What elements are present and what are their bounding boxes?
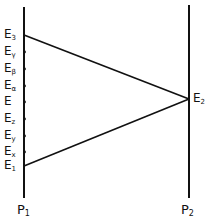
level-label-subscript: x bbox=[12, 151, 16, 159]
p2-label-base: P bbox=[181, 202, 189, 217]
level-label-base: E bbox=[4, 27, 12, 41]
level-label-base: E bbox=[4, 78, 12, 92]
level-label-subscript: 3 bbox=[12, 34, 16, 42]
transition-line-e3-e2 bbox=[24, 35, 189, 99]
level-tick-ez bbox=[23, 118, 26, 121]
energy-transfer-diagram bbox=[0, 0, 212, 220]
p1-label-base: P bbox=[17, 202, 25, 217]
level-label-subscript: β bbox=[12, 68, 16, 76]
level-label-base: E bbox=[4, 144, 12, 158]
transition-line-e1-e2 bbox=[24, 99, 189, 166]
level-label-e: E bbox=[4, 95, 12, 107]
level-label-ez: Ez bbox=[4, 112, 15, 126]
level-label-ex: Ex bbox=[4, 145, 16, 159]
p2-label-subscript: 2 bbox=[189, 209, 194, 218]
p1-label: P1 bbox=[17, 203, 30, 220]
level-label-subscript: 2 bbox=[201, 98, 205, 106]
level-tick-e bbox=[23, 101, 26, 104]
level-label-subscript: y bbox=[12, 135, 16, 143]
level-label-base: E bbox=[4, 111, 12, 125]
level-label-base: E bbox=[4, 44, 12, 58]
level-tick-egamma bbox=[23, 51, 26, 54]
level-label-subscript: α bbox=[12, 85, 17, 93]
level-label-subscript: 1 bbox=[12, 165, 16, 173]
level-tick-ey bbox=[23, 135, 26, 138]
level-label-subscript: γ bbox=[12, 51, 16, 59]
level-label-base: E bbox=[4, 61, 12, 75]
level-tick-ealpha bbox=[23, 85, 26, 88]
level-label-ey: Ey bbox=[4, 129, 16, 143]
level-label-e3: E3 bbox=[4, 28, 16, 42]
level-label-base: E bbox=[4, 94, 12, 108]
p2-label: P2 bbox=[181, 203, 194, 220]
p1-label-subscript: 1 bbox=[25, 209, 30, 218]
level-tick-ebeta bbox=[23, 68, 26, 71]
level-label-base: E bbox=[4, 128, 12, 142]
level-label-ebeta: Eβ bbox=[4, 62, 16, 76]
level-label-base: E bbox=[193, 91, 201, 105]
level-label-e1: E1 bbox=[4, 159, 16, 173]
level-label-ealpha: Eα bbox=[4, 79, 16, 93]
level-label-egamma: Eγ bbox=[4, 45, 16, 59]
level-label-e2: E2 bbox=[193, 92, 205, 106]
level-label-base: E bbox=[4, 158, 12, 172]
level-label-subscript: z bbox=[12, 118, 16, 126]
transition-lines bbox=[24, 35, 189, 166]
level-tick-ex bbox=[23, 151, 26, 154]
